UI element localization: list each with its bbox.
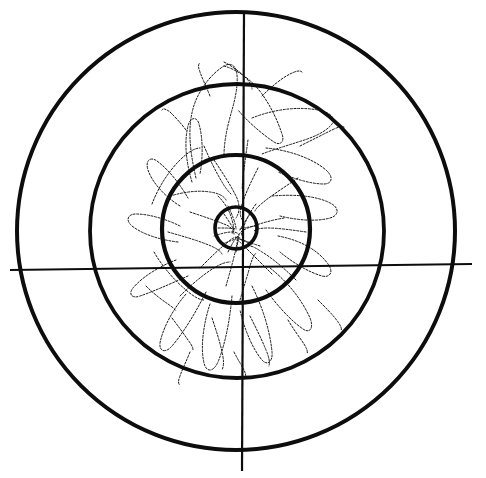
- bullseye-target-figure: [0, 0, 486, 478]
- target-canvas: [0, 0, 486, 478]
